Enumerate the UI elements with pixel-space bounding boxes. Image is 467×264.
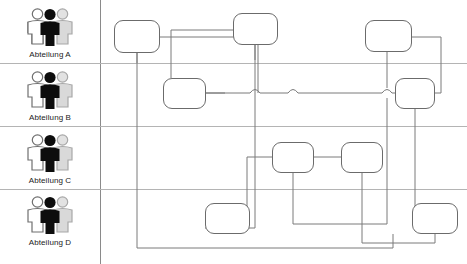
process-node[interactable] (272, 142, 314, 173)
process-node[interactable] (395, 78, 435, 109)
process-node[interactable] (233, 13, 278, 45)
process-node[interactable] (163, 78, 206, 109)
line-jump-2 (288, 90, 298, 94)
process-node[interactable] (205, 203, 250, 234)
process-node[interactable] (365, 20, 412, 52)
swimlane-diagram-canvas: Abteilung A Abteilung B (0, 0, 467, 264)
process-node[interactable] (412, 203, 458, 234)
line-jump-3 (382, 90, 392, 94)
process-node[interactable] (114, 20, 160, 53)
process-node[interactable] (341, 142, 383, 173)
